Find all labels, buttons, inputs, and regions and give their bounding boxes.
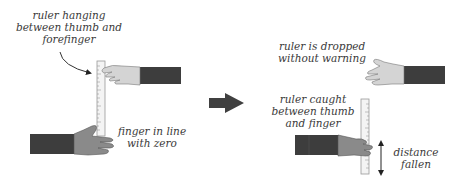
reaction-time-diagram: ruler hanging between thumb and forefing…	[0, 0, 456, 188]
next-step-arrow-icon	[209, 93, 244, 113]
label-ruler-caught: ruler caught between thumb and finger	[268, 93, 358, 129]
ruler-right	[361, 99, 369, 174]
distance-arrow-icon	[378, 140, 384, 176]
label-distance-fallen: distance fallen	[386, 146, 446, 170]
pointer-arrow-icon	[60, 52, 90, 73]
label-finger-zero: finger in line with zero	[112, 125, 192, 149]
dropped-hand	[366, 59, 446, 85]
holding-hand	[102, 65, 181, 85]
label-ruler-hanging: ruler hanging between thumb and forefing…	[14, 9, 124, 45]
label-ruler-dropped: ruler is dropped without warning	[270, 40, 374, 64]
